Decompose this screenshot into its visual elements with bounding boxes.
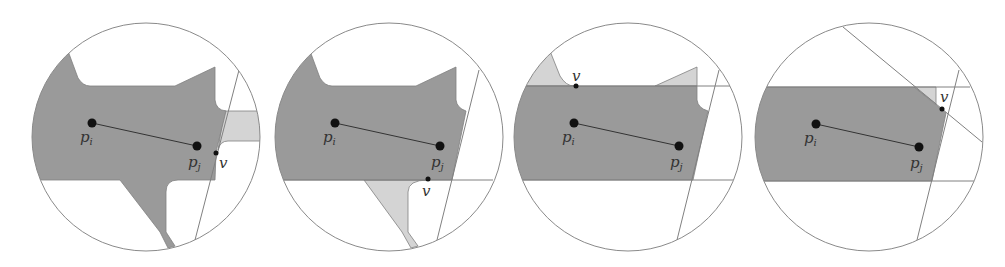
point-v xyxy=(426,177,431,182)
label-v: v xyxy=(572,67,581,85)
point-pi xyxy=(570,119,579,128)
point-pj xyxy=(436,142,445,151)
light-region xyxy=(364,180,428,248)
label-v: v xyxy=(219,154,228,172)
point-pi xyxy=(88,119,97,128)
panel-2: pi pj v xyxy=(272,23,503,251)
point-v xyxy=(214,151,219,156)
light-region xyxy=(512,51,574,86)
diagram-canvas: pi pj v pi pj v xyxy=(0,0,1005,267)
point-pj xyxy=(915,143,924,152)
label-v: v xyxy=(422,182,431,200)
point-v xyxy=(940,107,945,112)
point-pj xyxy=(675,142,684,151)
point-pi xyxy=(331,119,340,128)
label-v: v xyxy=(940,88,949,106)
panel-1: pi pj v xyxy=(30,23,262,251)
point-pj xyxy=(193,142,202,151)
light-region xyxy=(655,67,697,86)
panel-4: pi pj v xyxy=(752,23,983,251)
point-pi xyxy=(812,120,821,129)
panel-3: pi pj v xyxy=(512,23,742,251)
